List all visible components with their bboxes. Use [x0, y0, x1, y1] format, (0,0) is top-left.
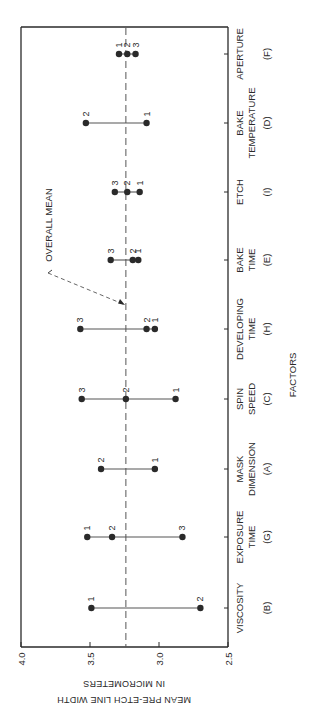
data-point-label: 1	[133, 248, 143, 253]
overall-mean-annotation: OVERALL MEAN	[43, 188, 125, 305]
factor-group-aperture: 123	[114, 42, 141, 57]
data-point-level-2	[197, 605, 203, 611]
factor-group-etch: 321	[110, 180, 145, 195]
factor-label-line: (D)	[261, 116, 272, 129]
data-point-level-1	[172, 396, 178, 402]
factor-group-viscosity: 12	[86, 596, 205, 611]
value-axis: 4.03.53.02.5MEAN PRE-ETCH LINE WIDTHIN M…	[16, 642, 234, 705]
data-point-label: 2	[195, 596, 205, 601]
data-point-level-2	[109, 534, 115, 540]
factor-axis: VISCOSITY(B)EXPOSURETIME(G)MASKDIMENSION…	[224, 28, 298, 633]
data-point-label: 2	[122, 180, 132, 185]
factor-label-line: ETCH	[234, 179, 245, 205]
factor-label-line: BAKE	[234, 247, 245, 272]
data-point-level-2	[130, 257, 136, 263]
data-point-level-1	[136, 189, 142, 195]
factor-label-line: APERTURE	[234, 28, 245, 80]
data-point-level-3	[77, 326, 83, 332]
factor-label-line: SPIN	[234, 388, 245, 410]
data-point-label: 3	[131, 42, 141, 47]
data-point-label: 1	[150, 457, 160, 462]
plot-frame	[21, 27, 228, 647]
data-point-level-2	[83, 120, 89, 126]
chart-canvas: 121232132132132132121123 4.03.53.02.5MEA…	[0, 0, 314, 713]
leader-arrowhead-icon	[118, 299, 125, 305]
data-point-level-1	[84, 534, 90, 540]
data-point-level-2	[143, 326, 149, 332]
factor-label-line: (B)	[261, 602, 272, 615]
data-point-level-2	[124, 51, 130, 57]
data-point-level-1	[152, 466, 158, 472]
factor-label-line: TIME	[246, 526, 257, 549]
main-effects-chart: 121232132132132132121123 4.03.53.02.5MEA…	[0, 0, 314, 713]
value-tick-label: 2.5	[223, 652, 234, 665]
data-point-label: 3	[177, 525, 187, 530]
factor-label-line: (H)	[261, 322, 272, 335]
data-point-level-1	[152, 326, 158, 332]
data-point-label: 1	[82, 525, 92, 530]
factor-label-line: TEMPERATURE	[246, 87, 257, 158]
factor-group-developing-time: 321	[75, 317, 160, 332]
data-point-level-3	[112, 189, 118, 195]
factor-group-exposure-time: 123	[82, 525, 187, 540]
factor-label-line: EXPOSURE	[234, 511, 245, 564]
data-point-level-3	[132, 51, 138, 57]
factor-axis-title: FACTORS	[287, 353, 298, 398]
factor-label-line: (F)	[261, 48, 272, 60]
factor-label-line: (G)	[261, 530, 272, 544]
data-point-label: 2	[96, 457, 106, 462]
value-tick-label: 4.0	[16, 652, 27, 665]
factor-label-line: TIME	[246, 249, 257, 272]
data-point-label: 2	[121, 387, 131, 392]
data-point-level-1	[135, 257, 141, 263]
factor-label-line: DIMENSION	[246, 442, 257, 496]
data-point-level-3	[179, 534, 185, 540]
data-point-level-1	[143, 120, 149, 126]
data-point-label: 1	[150, 317, 160, 322]
overall-mean-label: OVERALL MEAN	[43, 188, 54, 262]
factor-label-line: SPEED	[246, 383, 257, 415]
factor-label-line: (E)	[261, 254, 272, 267]
factor-group-bake-temperature: 21	[81, 111, 152, 126]
data-point-label: 3	[75, 317, 85, 322]
data-point-label: 3	[110, 180, 120, 185]
factor-label-line: TIME	[246, 318, 257, 341]
factor-group-spin-speed: 321	[77, 387, 181, 402]
data-point-label: 3	[106, 248, 116, 253]
data-point-level-3	[79, 396, 85, 402]
factor-label-line: (A)	[261, 463, 272, 476]
data-point-label: 3	[77, 387, 87, 392]
factor-label-line: (I)	[261, 188, 272, 197]
leader-elbow	[48, 270, 52, 273]
data-point-label: 2	[81, 111, 91, 116]
data-point-label: 1	[135, 180, 145, 185]
factor-label-line: BAKE	[234, 110, 245, 135]
data-point-level-2	[98, 466, 104, 472]
value-axis-title-line: IN MICROMETERS	[83, 679, 165, 689]
data-point-label: 1	[142, 111, 152, 116]
value-tick-label: 3.0	[154, 652, 165, 665]
factor-label-line: DEVELOPING	[234, 298, 245, 360]
data-point-level-3	[108, 257, 114, 263]
data-point-level-2	[123, 396, 129, 402]
factor-group-bake-time: 321	[106, 248, 144, 263]
leader-dashed-line	[48, 273, 123, 304]
factor-label-line: (C)	[261, 392, 272, 405]
factor-group-mask-dimension: 21	[96, 457, 160, 472]
data-point-label: 1	[86, 596, 96, 601]
factor-series: 121232132132132132121123	[75, 42, 205, 611]
value-axis-title-line: MEAN PRE-ETCH LINE WIDTH	[57, 695, 191, 705]
data-point-level-1	[116, 51, 122, 57]
data-point-level-2	[124, 189, 130, 195]
data-point-label: 2	[107, 525, 117, 530]
factor-label-line: VISCOSITY	[234, 582, 245, 633]
data-point-level-1	[88, 605, 94, 611]
factor-label-line: MASK	[234, 455, 245, 483]
data-point-label: 1	[171, 387, 181, 392]
value-tick-label: 3.5	[85, 652, 96, 665]
